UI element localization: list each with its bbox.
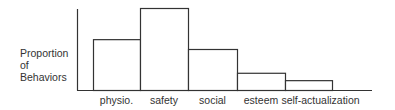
x-tick-label: self-actualization (281, 94, 359, 106)
bar-esteem (238, 73, 286, 90)
bar-physio (94, 40, 141, 91)
x-tick-label: social (199, 94, 226, 106)
x-tick-label: safety (150, 94, 179, 106)
x-tick-labels: physio.safetysocialesteemself-actualizat… (100, 94, 360, 106)
bars-group (94, 9, 333, 91)
bar-social (189, 50, 238, 91)
bar-self-actualization (286, 81, 333, 91)
x-tick-label: esteem (244, 94, 279, 106)
x-tick-label: physio. (100, 94, 133, 106)
bar-chart: physio.safetysocialesteemself-actualizat… (0, 0, 395, 110)
bar-safety (141, 9, 189, 91)
